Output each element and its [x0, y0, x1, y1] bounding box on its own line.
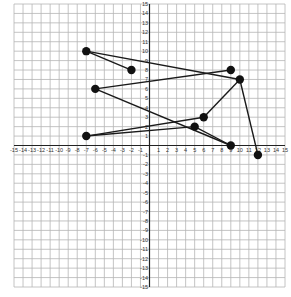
y-tick-label: 1: [145, 133, 148, 139]
y-tick-label: -11: [140, 246, 148, 252]
y-tick-label: -15: [140, 284, 148, 290]
y-tick-label: 14: [142, 10, 148, 16]
point-I: [227, 141, 235, 149]
x-tick-label: 3: [175, 147, 178, 153]
point-C: [227, 66, 235, 74]
x-tick-label: -15: [10, 147, 18, 153]
y-tick-label: -5: [143, 190, 148, 196]
x-tick-label: 14: [273, 147, 279, 153]
x-tick-label: 11: [246, 147, 252, 153]
x-tick-label: 13: [264, 147, 270, 153]
y-tick-label: -3: [143, 171, 148, 177]
point-E: [91, 85, 99, 93]
x-tick-label: 7: [211, 147, 214, 153]
point-D: [236, 75, 244, 83]
x-tick-label: -7: [84, 147, 89, 153]
y-tick-label: -8: [143, 218, 148, 224]
y-tick-label: 15: [142, 1, 148, 7]
x-tick-label: -2: [129, 147, 134, 153]
x-tick-label: -9: [66, 147, 71, 153]
y-tick-label: 10: [142, 48, 148, 54]
x-tick-label: 15: [282, 147, 288, 153]
y-tick-label: -4: [143, 180, 148, 186]
point-A: [82, 47, 90, 55]
point-H: [82, 132, 90, 140]
x-tick-label: -4: [111, 147, 116, 153]
x-tick-label: 5: [193, 147, 196, 153]
y-tick-label: -10: [140, 237, 148, 243]
y-tick-label: -12: [140, 256, 148, 262]
x-tick-label: -11: [46, 147, 54, 153]
x-tick-label: 6: [202, 147, 205, 153]
x-tick-label: -8: [75, 147, 80, 153]
point-G: [190, 122, 198, 130]
axes: [14, 4, 285, 287]
y-tick-label: 5: [145, 95, 148, 101]
x-tick-label: -10: [55, 147, 63, 153]
y-tick-label: -14: [140, 275, 148, 281]
x-tick-label: -3: [120, 147, 125, 153]
x-tick-label: 1: [157, 147, 160, 153]
y-tick-label: 6: [145, 86, 148, 92]
x-tick-label: -13: [28, 147, 36, 153]
segment-A-D: [86, 51, 240, 79]
point-B: [127, 66, 135, 74]
x-tick-label: -12: [37, 147, 45, 153]
y-tick-label: 13: [142, 20, 148, 26]
x-tick-label: 2: [166, 147, 169, 153]
x-tick-label: -6: [93, 147, 98, 153]
data-points: [82, 47, 262, 159]
y-tick-label: -13: [140, 265, 148, 271]
x-tick-label: 4: [184, 147, 187, 153]
y-tick-label: 12: [142, 29, 148, 35]
coordinate-grid-chart: -15-14-13-12-11-10-9-8-7-6-5-4-3-2-11234…: [0, 0, 291, 297]
y-tick-label: 11: [142, 39, 148, 45]
y-tick-label: 8: [145, 67, 148, 73]
y-tick-label: -7: [143, 209, 148, 215]
x-tick-label: 10: [237, 147, 243, 153]
point-J: [254, 151, 262, 159]
y-tick-label: -1: [143, 152, 148, 158]
x-tick-label: 8: [220, 147, 223, 153]
y-tick-label: -2: [143, 161, 148, 167]
x-tick-label: -14: [19, 147, 27, 153]
y-tick-label: 3: [145, 114, 148, 120]
y-tick-label: -6: [143, 199, 148, 205]
x-tick-label: -5: [102, 147, 107, 153]
point-F: [200, 113, 208, 121]
y-tick-label: -9: [143, 227, 148, 233]
